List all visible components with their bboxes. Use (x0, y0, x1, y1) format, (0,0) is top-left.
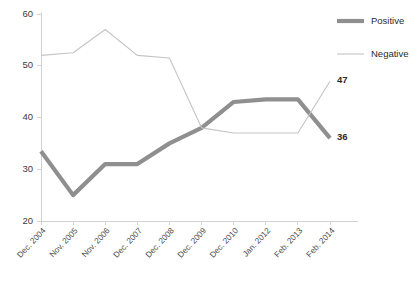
chart-canvas: 2030405060 Dec. 2004Nov. 2005Nov. 2006De… (0, 0, 411, 283)
series-lines (41, 30, 330, 196)
line-chart: 2030405060 Dec. 2004Nov. 2005Nov. 2006De… (0, 0, 411, 283)
x-tick-label: Dec. 2007 (112, 226, 144, 260)
series-line-negative (41, 30, 330, 134)
y-tick-label: 60 (22, 8, 33, 19)
x-tick-label: Dec. 2004 (15, 226, 47, 260)
chart-legend: PositiveNegative (337, 15, 409, 59)
data-label-negative: 47 (337, 74, 348, 85)
y-tick-label: 20 (22, 215, 33, 226)
x-tick-label: Nov. 2005 (48, 226, 80, 259)
y-axis-ticks: 2030405060 (22, 8, 41, 226)
y-tick-label: 40 (22, 111, 33, 122)
data-labels: 3647 (337, 74, 348, 142)
x-tick-label: Feb. 2013 (273, 226, 305, 259)
x-tick-label: Dec. 2010 (208, 226, 240, 260)
x-tick-label: Jan. 2012 (241, 226, 272, 259)
series-line-positive (41, 99, 330, 195)
x-tick-label: Dec. 2009 (176, 226, 208, 260)
x-tick-label: Dec. 2008 (144, 226, 176, 260)
data-label-positive: 36 (337, 131, 348, 142)
x-axis-ticks: Dec. 2004Nov. 2005Nov. 2006Dec. 2007Dec.… (15, 221, 336, 260)
legend-label-negative[interactable]: Negative (371, 48, 409, 59)
y-tick-label: 50 (22, 59, 33, 70)
legend-label-positive[interactable]: Positive (371, 15, 404, 26)
y-tick-label: 30 (22, 163, 33, 174)
x-tick-label: Feb. 2014 (305, 226, 337, 259)
x-tick-label: Nov. 2006 (80, 226, 112, 259)
